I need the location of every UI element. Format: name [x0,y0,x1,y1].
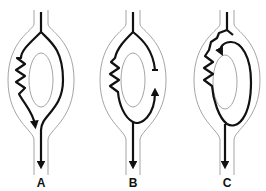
panel-a [8,10,74,175]
panel-a-label: A [31,176,51,190]
flow-path-wavy [16,32,41,125]
panel-b [100,10,166,175]
inner-core [29,53,53,107]
flow-path-wavy [204,30,251,125]
inner-core [213,55,237,109]
diagram-canvas [0,0,266,191]
panel-b-label: B [123,176,143,190]
inner-core [121,53,145,107]
flow-path-wavy [110,32,155,123]
panel-c [194,10,260,175]
flow-path-right-upper [133,12,155,70]
panel-c-label: C [217,176,237,190]
flow-path-top [227,12,233,35]
